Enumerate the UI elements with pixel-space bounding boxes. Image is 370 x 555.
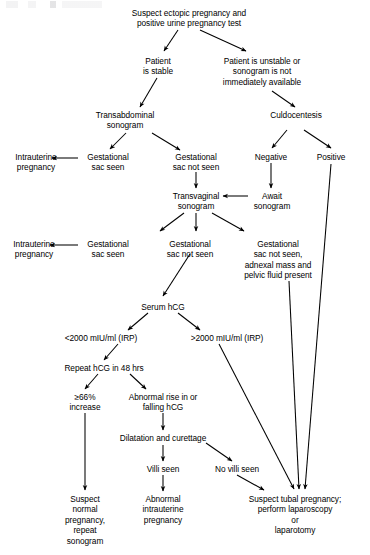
node-hcg-below-2000: <2000 mIU/ml (IRP) xyxy=(51,333,151,343)
node-gestational-sac-not-seen-2: Gestational sac not seen xyxy=(150,239,230,260)
node-transabdominal-sonogram: Transabdominal sonogram xyxy=(79,110,171,131)
node-gestational-sac-not-seen-1: Gestational sac not seen xyxy=(156,152,236,173)
node-66-percent-increase: ≥66% increase xyxy=(55,392,115,413)
node-abnormal-intrauterine-pregnancy: Abnormal intrauterine pregnancy xyxy=(125,494,201,525)
edge-sacnotseen2-hcg xyxy=(163,254,190,296)
node-culdocentesis-positive: Positive xyxy=(305,152,357,162)
node-culdocentesis-negative: Negative xyxy=(243,152,299,162)
edge-ta-sacnotseen xyxy=(152,133,180,150)
node-no-villi-seen: No villi seen xyxy=(198,464,276,474)
node-repeat-hcg-48hrs: Repeat hCG in 48 hrs xyxy=(46,363,162,373)
edge-low-repeat xyxy=(104,344,118,360)
node-patient-unstable: Patient is unstable or sonogram is not i… xyxy=(203,56,321,87)
edge-tv-sacseen2 xyxy=(160,213,184,231)
node-intrauterine-pregnancy-1: Intrauterine pregnancy xyxy=(0,152,74,173)
edge-hcg-high xyxy=(178,313,200,330)
edge-repeat-abnormal xyxy=(130,374,146,389)
node-hcg-above-2000: >2000 mIU/ml (IRP) xyxy=(177,333,277,343)
node-gestational-sac-seen-1: Gestational sac seen xyxy=(73,152,143,173)
edge-culdo-positive xyxy=(304,130,331,148)
node-serum-hcg: Serum hCG xyxy=(128,302,198,312)
edge-hcg-low xyxy=(128,313,148,330)
flowchart-diagram: Suspect ectopic pregnancy and positive u… xyxy=(0,0,370,555)
edge-positive-tubal xyxy=(305,164,331,489)
node-dilatation-curettage: Dilatation and curettage xyxy=(97,433,229,443)
node-start: Suspect ectopic pregnancy and positive u… xyxy=(96,8,282,29)
node-culdocentesis: Culdocentesis xyxy=(254,110,338,120)
node-adnexal-mass-pelvic-fluid: Gestational sac not seen, adnexal mass a… xyxy=(229,239,327,281)
node-villi-seen: Villi seen xyxy=(130,464,196,474)
node-suspect-normal-pregnancy: Suspect normal pregnancy, repeat sonogra… xyxy=(47,494,123,546)
node-suspect-tubal-pregnancy: Suspect tubal pregnancy; perform laparos… xyxy=(225,494,365,536)
edge-stable-transabdominal xyxy=(140,78,157,107)
node-intrauterine-pregnancy-2: Intrauterine pregnancy xyxy=(0,239,72,260)
node-abnormal-rise-falling-hcg: Abnormal rise in or falling hCG xyxy=(111,392,215,413)
edge-adnexal-tubal xyxy=(289,281,299,489)
edge-start-unstable xyxy=(200,30,246,51)
node-await-sonogram: Await sonogram xyxy=(241,191,303,212)
node-gestational-sac-seen-2: Gestational sac seen xyxy=(73,239,143,260)
edge-novilli-tubal xyxy=(237,475,264,490)
node-patient-stable: Patient is stable xyxy=(123,56,193,77)
edge-dnc-novilli xyxy=(206,443,232,461)
edge-tv-adnexal xyxy=(212,213,244,231)
edge-repeat-66 xyxy=(85,374,98,389)
edge-start-stable xyxy=(164,30,178,51)
scan-artifact xyxy=(6,1,102,8)
edge-culdo-negative xyxy=(272,130,287,148)
node-transvaginal-sonogram: Transvaginal sonogram xyxy=(154,191,238,212)
edge-ta-sacseen xyxy=(110,133,126,149)
edge-unstable-culdocentesis xyxy=(272,91,295,107)
